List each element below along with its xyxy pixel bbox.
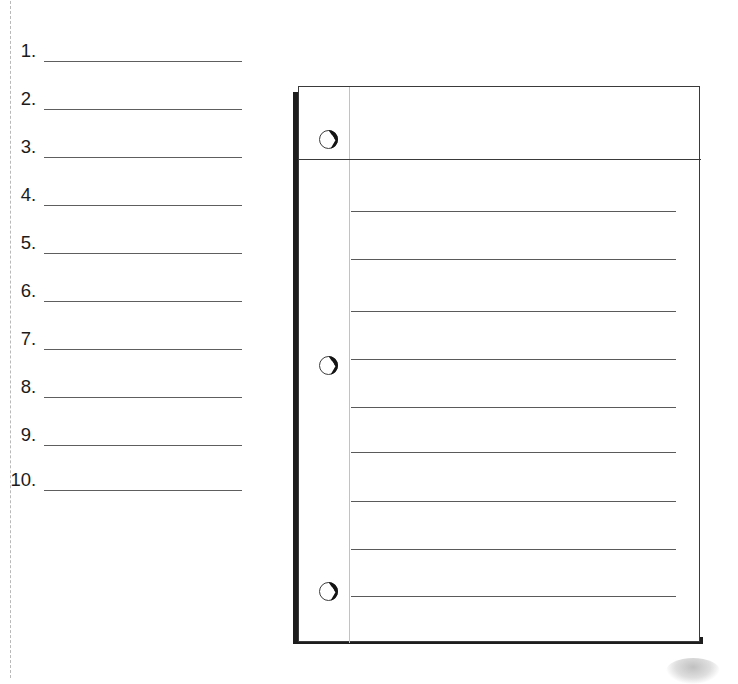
answer-blank-rule[interactable] — [44, 205, 242, 206]
ruled-line — [351, 311, 676, 312]
list-item: 1. — [0, 36, 285, 62]
list-item-number: 1. — [0, 42, 36, 63]
answer-blank-rule[interactable] — [44, 109, 242, 110]
paper-sheet — [298, 86, 700, 642]
hole-punch-icon — [319, 582, 338, 601]
list-item-number: 7. — [0, 330, 36, 351]
list-item-number: 2. — [0, 90, 36, 111]
list-item: 3. — [0, 132, 285, 158]
answer-blank-rule[interactable] — [44, 490, 242, 491]
hole-punch-icon — [319, 130, 338, 149]
answer-blank-rule[interactable] — [44, 253, 242, 254]
list-item-number: 3. — [0, 138, 36, 159]
list-item: 6. — [0, 276, 285, 302]
list-item-number: 9. — [0, 426, 36, 447]
list-item-number: 8. — [0, 378, 36, 399]
answer-blank-rule[interactable] — [44, 61, 242, 62]
page-smudge — [666, 658, 720, 684]
vertical-margin-rule — [349, 87, 350, 643]
header-divider-rule — [299, 159, 701, 160]
ruled-line — [351, 452, 676, 453]
list-item-number: 10. — [0, 471, 36, 492]
answer-blank-rule[interactable] — [44, 157, 242, 158]
answer-blank-rule[interactable] — [44, 301, 242, 302]
ruled-line — [351, 501, 676, 502]
ruled-line — [351, 549, 676, 550]
hole-punch-icon — [319, 356, 338, 375]
answer-blank-rule[interactable] — [44, 349, 242, 350]
list-item: 10. — [0, 465, 285, 491]
ruled-line — [351, 211, 676, 212]
ruled-line — [351, 407, 676, 408]
lined-notebook-page — [293, 86, 701, 649]
list-item: 4. — [0, 180, 285, 206]
answer-blank-rule[interactable] — [44, 397, 242, 398]
list-item-number: 6. — [0, 282, 36, 303]
list-item: 2. — [0, 84, 285, 110]
ruled-line — [351, 596, 676, 597]
list-item: 8. — [0, 372, 285, 398]
list-item: 9. — [0, 420, 285, 446]
numbered-answer-list: 1. 2. 3. 4. 5. 6. 7. 8. 9. 10. — [0, 0, 285, 674]
ruled-line — [351, 259, 676, 260]
list-item: 5. — [0, 228, 285, 254]
list-item-number: 4. — [0, 186, 36, 207]
ruled-line — [351, 359, 676, 360]
list-item-number: 5. — [0, 234, 36, 255]
list-item: 7. — [0, 324, 285, 350]
answer-blank-rule[interactable] — [44, 445, 242, 446]
